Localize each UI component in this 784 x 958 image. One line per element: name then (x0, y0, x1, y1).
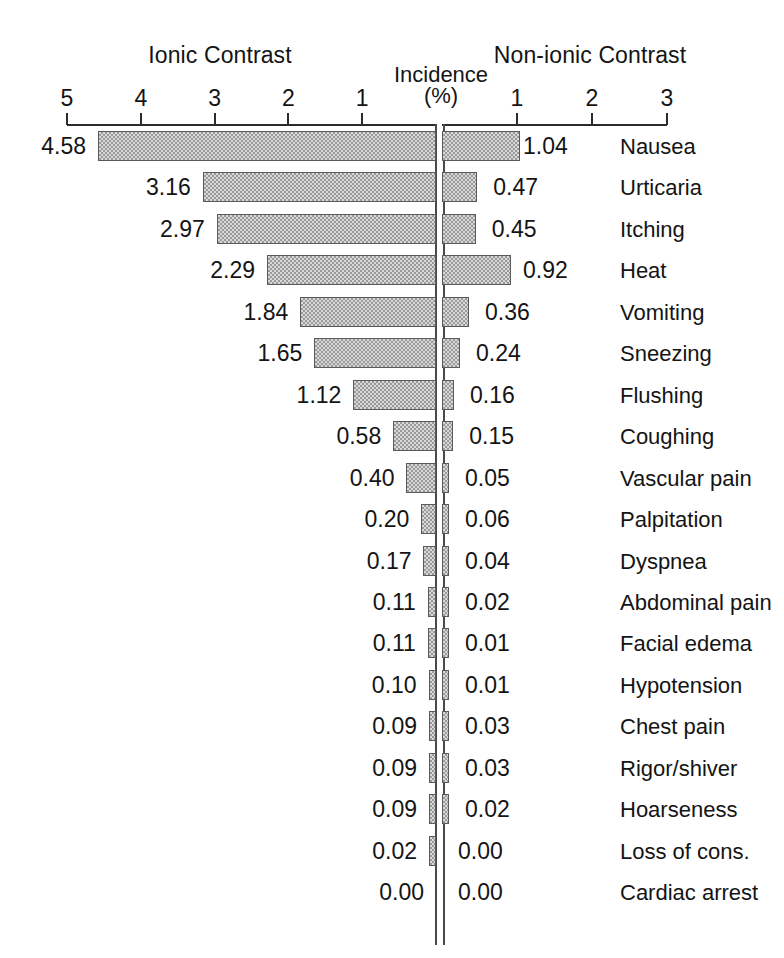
category-label: Palpitation (620, 507, 723, 533)
bar-ionic (267, 255, 436, 285)
category-label: Nausea (620, 134, 696, 160)
category-label: Coughing (620, 424, 714, 450)
category-label: Itching (620, 217, 685, 243)
bar-nonionic (442, 338, 460, 368)
value-label-nonionic: 0.45 (492, 216, 537, 243)
value-label-nonionic: 0.01 (465, 630, 510, 657)
chart-row: 0.400.05Vascular pain (0, 463, 784, 493)
value-label-nonionic: 0.92 (523, 257, 568, 284)
chart-row: 3.160.47Urticaria (0, 172, 784, 202)
category-label: Vascular pain (620, 466, 752, 492)
value-label-ionic: 0.00 (379, 879, 424, 906)
category-label: Heat (620, 258, 666, 284)
bar-nonionic (442, 670, 449, 700)
chart-row: 4.581.04Nausea (0, 131, 784, 161)
right-tick-mark-1 (516, 113, 518, 125)
chart-row: 1.650.24Sneezing (0, 338, 784, 368)
category-label: Hoarseness (620, 797, 737, 823)
left-tick-label-2: 2 (268, 85, 308, 112)
left-tick-label-5: 5 (47, 85, 87, 112)
right-tick-label-3: 3 (647, 85, 687, 112)
left-tick-mark-4 (140, 113, 142, 125)
bar-ionic (428, 587, 436, 617)
left-tick-mark-2 (287, 113, 289, 125)
left-tick-label-1: 1 (342, 85, 382, 112)
right-axis-line (442, 124, 667, 126)
bar-nonionic (442, 463, 449, 493)
bar-ionic (353, 380, 436, 410)
chart-row: 0.100.01Hypotension (0, 670, 784, 700)
value-label-ionic: 4.58 (41, 133, 86, 160)
value-label-nonionic: 0.00 (458, 838, 503, 865)
value-label-nonionic: 1.04 (523, 133, 568, 160)
value-label-ionic: 0.02 (372, 838, 417, 865)
left-axis-line (67, 124, 436, 126)
right-tick-label-1: 1 (497, 85, 537, 112)
value-label-ionic: 0.11 (373, 630, 416, 657)
category-label: Chest pain (620, 714, 725, 740)
bar-ionic (423, 546, 436, 576)
incidence-chart: Ionic Contrast Non-ionic Contrast Incide… (0, 0, 784, 958)
bar-nonionic (442, 628, 449, 658)
bar-ionic (429, 753, 436, 783)
value-label-nonionic: 0.36 (485, 299, 530, 326)
chart-row: 0.170.04Dyspnea (0, 546, 784, 576)
chart-row: 0.110.02Abdominal pain (0, 587, 784, 617)
category-label: Urticaria (620, 175, 702, 201)
value-label-ionic: 0.58 (336, 423, 381, 450)
bar-ionic (314, 338, 436, 368)
value-label-nonionic: 0.00 (458, 879, 503, 906)
left-tick-mark-3 (214, 113, 216, 125)
left-tick-label-4: 4 (121, 85, 161, 112)
category-label: Hypotension (620, 673, 742, 699)
bar-nonionic (442, 131, 520, 161)
left-tick-mark-5 (66, 113, 68, 125)
chart-row: 0.110.01Facial edema (0, 628, 784, 658)
chart-row: 0.090.02Hoarseness (0, 794, 784, 824)
value-label-nonionic: 0.16 (470, 382, 515, 409)
chart-row: 0.200.06Palpitation (0, 504, 784, 534)
value-label-ionic: 0.10 (372, 672, 417, 699)
right-tick-mark-2 (591, 113, 593, 125)
category-label: Sneezing (620, 341, 712, 367)
value-label-ionic: 2.29 (210, 257, 255, 284)
bar-nonionic (442, 753, 449, 783)
bar-nonionic (442, 172, 477, 202)
category-label: Vomiting (620, 300, 704, 326)
value-label-ionic: 3.16 (146, 174, 191, 201)
chart-row: 0.000.00Cardiac arrest (0, 877, 784, 907)
bar-nonionic (442, 380, 454, 410)
value-label-nonionic: 0.04 (465, 548, 510, 575)
bar-ionic (429, 794, 436, 824)
value-label-nonionic: 0.02 (465, 796, 510, 823)
value-label-ionic: 1.84 (243, 299, 288, 326)
bar-ionic (429, 670, 436, 700)
bar-nonionic (442, 546, 449, 576)
value-label-nonionic: 0.15 (469, 423, 514, 450)
value-label-nonionic: 0.03 (465, 755, 510, 782)
bar-ionic (393, 421, 436, 451)
chart-row: 0.090.03Rigor/shiver (0, 753, 784, 783)
left-tick-label-3: 3 (195, 85, 235, 112)
bar-nonionic (442, 214, 476, 244)
bar-ionic (203, 172, 436, 202)
chart-row: 1.120.16Flushing (0, 380, 784, 410)
category-label: Cardiac arrest (620, 880, 758, 906)
category-label: Dyspnea (620, 549, 707, 575)
value-label-ionic: 0.09 (372, 713, 417, 740)
value-label-ionic: 1.65 (257, 340, 302, 367)
chart-row: 0.580.15Coughing (0, 421, 784, 451)
bar-nonionic (442, 255, 511, 285)
category-label: Abdominal pain (620, 590, 772, 616)
chart-row: 2.970.45Itching (0, 214, 784, 244)
value-label-nonionic: 0.05 (465, 465, 510, 492)
right-tick-mark-3 (666, 113, 668, 125)
bar-nonionic (442, 504, 449, 534)
bar-ionic (429, 711, 436, 741)
value-label-ionic: 1.12 (297, 382, 342, 409)
bar-nonionic (442, 587, 449, 617)
bar-ionic (98, 131, 436, 161)
value-label-ionic: 0.20 (364, 506, 409, 533)
value-label-ionic: 0.09 (372, 796, 417, 823)
bar-ionic (300, 297, 436, 327)
